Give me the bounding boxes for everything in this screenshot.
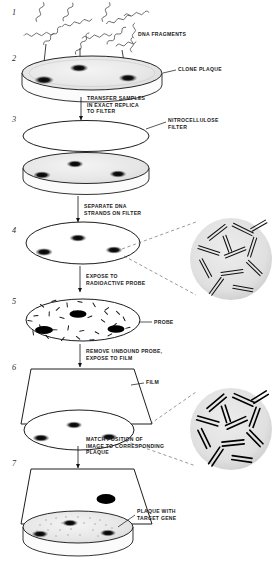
clone-plaque-leader [163, 70, 176, 73]
plaque-spot [70, 64, 88, 72]
step-number-5: 5 [12, 297, 16, 306]
step-number-4: 4 [12, 226, 16, 235]
plaque-spot [35, 326, 53, 334]
label-nitrocellulose-filter: NITROCELLULOSE FILTER [168, 117, 219, 130]
step-number-2: 2 [12, 54, 16, 63]
plaque-spot [32, 531, 48, 538]
step-number-1: 1 [12, 8, 16, 17]
plaque-spot [119, 74, 137, 82]
step-1-dna-fragments [24, 2, 149, 55]
plaque-spot [108, 325, 125, 333]
step-number-7: 7 [12, 459, 16, 468]
plaque-spot [67, 161, 83, 168]
caption-transfer: TRANSFER SAMPLES IN EXACT REPLICA TO FIL… [87, 95, 145, 115]
caption-separate: SEPARATE DNA STRANDS ON FILTER [84, 203, 141, 216]
plaque-spot [34, 171, 51, 178]
label-dna-fragments: DNA FRAGMENTS [138, 31, 186, 38]
step-5-probe-filter [26, 299, 140, 341]
plaque-spot [35, 76, 54, 84]
double-stranded-dna-inset [190, 218, 272, 300]
target-signal-spot [97, 494, 116, 504]
plaque-spot [33, 434, 49, 441]
step-3-nitrocellulose-filter [23, 121, 149, 152]
plaque-spot [110, 171, 126, 178]
step-number-6: 6 [12, 363, 16, 372]
step-number-3: 3 [12, 115, 16, 124]
step-3-petri-dish [23, 153, 149, 195]
plaque-spot [66, 422, 82, 429]
plaque-spot [106, 246, 122, 253]
plaque-spot [70, 234, 86, 241]
caption-match: MATCH POSITION OF IMAGE TO CORRESPONDING… [86, 436, 164, 456]
plaque-spot [70, 310, 87, 318]
filter-leader [146, 122, 166, 129]
step-7-final-dish [23, 511, 133, 556]
plaque-spot [36, 248, 53, 256]
label-film: FILM [146, 379, 159, 386]
caption-expose-probe: EXPOSE TO RADIOACTIVE PROBE [86, 273, 145, 286]
label-plaque-target-gene: PLAQUE WITH TARGET GENE [137, 508, 177, 521]
probe-bound-dna-inset [190, 388, 272, 470]
plaque-spot [100, 530, 116, 537]
label-clone-plaque: CLONE PLAQUE [178, 66, 222, 73]
step-4-filter-disc [26, 222, 140, 264]
caption-remove-probe: REMOVE UNBOUND PROBE, EXPOSE TO FILM [86, 348, 162, 361]
label-probe: PROBE [154, 319, 174, 326]
plaque-spot [62, 520, 78, 527]
